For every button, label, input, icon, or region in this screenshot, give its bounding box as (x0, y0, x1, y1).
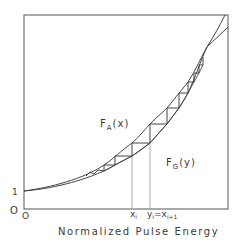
iteration-diagram: 1 O O xi yi=xi+1 FA(x) FG(y) Normalized … (0, 0, 241, 247)
xtick-zero: O (22, 211, 29, 221)
marker-yi: yi=xi+1 (147, 209, 178, 220)
label-fa: FA(x) (100, 118, 129, 132)
ytick-zero: O (10, 205, 18, 216)
marker-xi: xi (130, 209, 137, 220)
label-fg: FG(y) (166, 157, 196, 171)
ytick-one: 1 (12, 187, 18, 197)
x-axis-label: Normalized Pulse Energy (58, 226, 219, 237)
curve-fg (24, 27, 228, 191)
plot-frame (24, 15, 228, 209)
